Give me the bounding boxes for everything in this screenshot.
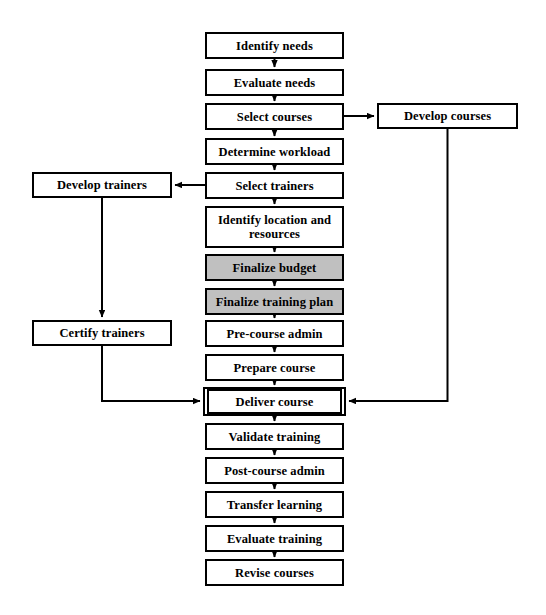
edge-certify-trainers-to-deliver-course [102,346,200,401]
node-label: Identify location and resources [207,213,342,241]
node-revise-courses[interactable]: Revise courses [205,559,344,586]
node-identify-needs[interactable]: Identify needs [205,32,344,59]
flowchart-canvas: Identify needs Evaluate needs Select cou… [0,0,546,615]
node-label: Develop courses [400,109,495,123]
edge-develop-courses-to-deliver-course [349,129,448,401]
node-evaluate-needs[interactable]: Evaluate needs [205,69,344,96]
node-label: Determine workload [215,145,335,159]
node-finalize-training-plan[interactable]: Finalize training plan [205,288,344,315]
node-develop-courses[interactable]: Develop courses [377,103,518,129]
node-transfer-learning[interactable]: Transfer learning [205,491,344,518]
node-label: Deliver course [232,395,318,409]
node-develop-trainers[interactable]: Develop trainers [32,172,172,198]
node-label: Develop trainers [53,178,151,192]
node-label: Evaluate training [223,532,326,546]
node-determine-workload[interactable]: Determine workload [205,138,344,165]
node-label: Select trainers [231,179,317,193]
node-label: Certify trainers [55,326,148,340]
node-validate-training[interactable]: Validate training [205,423,344,450]
node-evaluate-training[interactable]: Evaluate training [205,525,344,552]
node-label: Finalize training plan [212,295,338,309]
node-select-courses[interactable]: Select courses [205,103,344,130]
node-post-course-admin[interactable]: Post-course admin [205,457,344,484]
node-label: Finalize budget [229,261,321,275]
node-label: Transfer learning [223,498,326,512]
node-label: Validate training [225,430,325,444]
node-label: Select courses [233,110,316,124]
node-certify-trainers[interactable]: Certify trainers [32,320,172,346]
node-label: Evaluate needs [230,76,320,90]
node-label: Post-course admin [220,464,329,478]
node-label: Prepare course [230,361,320,375]
node-finalize-budget[interactable]: Finalize budget [205,254,344,281]
deliver-course-inner-frame: Deliver course [207,389,342,414]
node-select-trainers[interactable]: Select trainers [205,172,344,199]
node-identify-location-and-resources[interactable]: Identify location and resources [205,206,344,248]
node-label: Identify needs [232,39,317,53]
node-pre-course-admin[interactable]: Pre-course admin [205,320,344,347]
node-deliver-course[interactable]: Deliver course [203,387,346,416]
node-label: Revise courses [231,566,318,580]
node-prepare-course[interactable]: Prepare course [205,354,344,381]
node-label: Pre-course admin [222,327,326,341]
